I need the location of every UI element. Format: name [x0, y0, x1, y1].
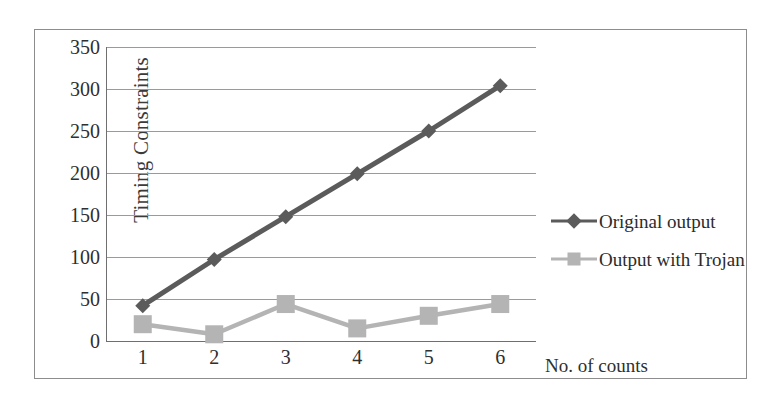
square-marker-icon [491, 295, 509, 313]
square-marker-icon [348, 319, 366, 337]
x-tick-label: 2 [209, 347, 219, 367]
legend-label-trojan: Output with Trojan [599, 250, 745, 269]
square-marker-icon [551, 252, 597, 266]
y-tick-label: 250 [70, 121, 100, 141]
square-marker-icon [277, 295, 295, 313]
series-trojan [134, 295, 510, 343]
x-tick-label: 4 [352, 347, 362, 367]
figure-frame: Timing Constraints 050100150200250300350… [34, 29, 747, 379]
x-tick-label: 5 [424, 347, 434, 367]
x-tick-label: 3 [281, 347, 291, 367]
x-axis-title: No. of counts [545, 355, 648, 377]
series-line [143, 86, 501, 306]
chart-legend: Original output Output with Trojan [551, 202, 751, 278]
y-tick-label: 200 [70, 163, 100, 183]
y-tick-label: 0 [90, 331, 100, 351]
series-original [135, 78, 508, 313]
series-plot [107, 47, 536, 341]
y-tick-label: 350 [70, 37, 100, 57]
square-marker-icon [420, 307, 438, 325]
legend-item-original[interactable]: Original output [551, 202, 751, 240]
legend-label-original: Original output [599, 212, 716, 231]
series-line [143, 304, 501, 334]
plot-area: 050100150200250300350 123456 [106, 47, 536, 342]
y-tick-label: 50 [80, 289, 100, 309]
diamond-marker-icon [551, 214, 597, 228]
y-tick-label: 300 [70, 79, 100, 99]
y-tick-label: 100 [70, 247, 100, 267]
y-tick-label: 150 [70, 205, 100, 225]
x-tick-label: 6 [495, 347, 505, 367]
square-marker-icon [205, 325, 223, 343]
x-tick-label: 1 [138, 347, 148, 367]
square-marker-icon [134, 315, 152, 333]
legend-item-trojan[interactable]: Output with Trojan [551, 240, 751, 278]
